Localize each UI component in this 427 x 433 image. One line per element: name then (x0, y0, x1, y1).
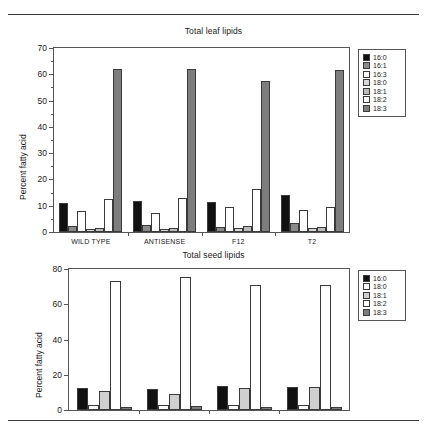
bar-18-2-4 (320, 285, 331, 410)
legend-item[interactable]: 16:3 (363, 70, 401, 79)
legend-item[interactable]: 18:0 (363, 79, 401, 88)
y-tick (49, 127, 54, 128)
bar-16-1-2 (142, 225, 151, 232)
legend-item[interactable]: 18:1 (363, 87, 401, 96)
y-tick-label: 60 (38, 70, 47, 79)
legend-swatch-icon (363, 71, 370, 78)
bar-16-1-1 (68, 226, 77, 232)
bar-18-3-2 (191, 406, 202, 410)
y-tick-label: 0 (42, 228, 47, 237)
x-tick (209, 410, 210, 414)
legend-swatch-icon (363, 292, 370, 299)
bar-18-1-1 (95, 228, 104, 232)
y-tick-minor (51, 61, 54, 62)
y-tick (64, 269, 69, 270)
legend-label: 16:1 (373, 62, 387, 69)
legend-label: 18:0 (373, 79, 387, 86)
legend-item[interactable]: 16:0 (363, 274, 401, 283)
bar-16-3-1 (77, 211, 86, 232)
bar-18-0-3 (228, 405, 239, 410)
bar-18-1-4 (317, 227, 326, 232)
legend-swatch-icon (363, 96, 370, 103)
y-tick-label: 40 (38, 123, 47, 132)
y-tick-label: 50 (38, 96, 47, 105)
y-tick-minor (51, 193, 54, 194)
bar-16-3-2 (151, 213, 160, 232)
plot-area-seed: 020406080 (68, 268, 350, 411)
legend-label: 16:0 (373, 275, 387, 282)
legend-label: 16:3 (373, 71, 387, 78)
bar-18-2-4 (326, 207, 335, 232)
x-tick (279, 410, 280, 414)
panel-total-leaf-lipids: Total leaf lipids Percent fatty acid 010… (0, 22, 427, 232)
legend-item[interactable]: 18:2 (363, 96, 401, 105)
plot-area-leaf: 010203040506070WILD TYPEANTISENSEF12T2 (53, 47, 350, 233)
legend-item[interactable]: 18:3 (363, 104, 401, 113)
bar-18-0-4 (308, 228, 317, 232)
y-tick (49, 48, 54, 49)
legend-item[interactable]: 16:1 (363, 62, 401, 71)
y-tick (64, 304, 69, 305)
bar-16-0-2 (147, 389, 158, 410)
y-tick-label: 20 (38, 175, 47, 184)
bar-18-3-1 (113, 69, 122, 232)
y-tick-minor (51, 114, 54, 115)
y-tick (64, 410, 69, 411)
x-tick (275, 232, 276, 236)
bar-18-2-2 (178, 198, 187, 232)
legend-label: 16:0 (373, 54, 387, 61)
x-tick (202, 232, 203, 236)
y-tick-label: 80 (53, 265, 62, 274)
legend-label: 18:2 (373, 96, 387, 103)
bar-18-2-3 (252, 189, 261, 232)
figure-top-rule (8, 14, 419, 15)
x-category-label: T2 (308, 238, 317, 245)
legend-swatch-icon (363, 300, 370, 307)
y-tick (49, 101, 54, 102)
y-tick-label: 40 (53, 335, 62, 344)
bar-16-0-1 (77, 388, 88, 410)
bar-18-3-3 (261, 81, 270, 232)
legend-label: 18:1 (373, 292, 387, 299)
bar-18-3-4 (335, 70, 344, 232)
legend-swatch-icon (363, 309, 370, 316)
bar-16-0-4 (281, 195, 290, 232)
bar-16-3-4 (299, 210, 308, 232)
bar-18-1-1 (99, 391, 110, 410)
legend-label: 18:2 (373, 300, 387, 307)
y-tick-label: 10 (38, 201, 47, 210)
y-tick-label: 0 (57, 406, 62, 415)
x-category-label: WILD TYPE (71, 238, 110, 245)
bar-18-0-4 (298, 405, 309, 410)
x-category-label: F12 (232, 238, 245, 245)
bar-16-0-2 (133, 201, 142, 232)
y-axis-label-leaf: Percent fatty acid (18, 134, 28, 200)
legend-item[interactable]: 16:0 (363, 53, 401, 62)
bar-18-3-1 (121, 407, 132, 410)
legend-label: 18:3 (373, 309, 387, 316)
bar-18-2-1 (110, 281, 121, 410)
bar-16-0-3 (217, 386, 228, 410)
x-category-label: ANTISENSE (144, 238, 185, 245)
bar-18-0-2 (160, 229, 169, 232)
legend-seed: 16:018:018:118:218:3 (358, 270, 406, 321)
y-tick-minor (51, 219, 54, 220)
y-tick (64, 340, 69, 341)
y-tick-label: 60 (53, 300, 62, 309)
legend-item[interactable]: 18:3 (363, 308, 401, 317)
legend-item[interactable]: 18:2 (363, 300, 401, 309)
figure-bottom-rule (8, 420, 419, 421)
bar-18-0-2 (158, 405, 169, 410)
legend-item[interactable]: 18:1 (363, 291, 401, 300)
y-tick (49, 206, 54, 207)
bar-18-3-2 (187, 69, 196, 232)
bar-16-0-1 (59, 203, 68, 232)
bar-18-1-3 (239, 388, 250, 410)
bar-18-0-1 (88, 405, 99, 410)
bar-18-2-3 (250, 285, 261, 410)
legend-item[interactable]: 18:0 (363, 283, 401, 292)
bar-18-1-4 (309, 387, 320, 410)
legend-swatch-icon (363, 105, 370, 112)
legend-swatch-icon (363, 54, 370, 61)
legend-swatch-icon (363, 283, 370, 290)
